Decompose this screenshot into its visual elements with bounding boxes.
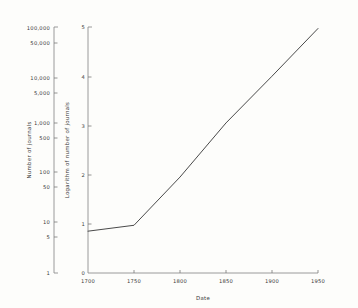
left-tick-label-10: 10 <box>43 219 50 225</box>
left-tick-label-500: 500 <box>39 135 50 141</box>
bottom-tick-label-1800: 1800 <box>173 278 187 284</box>
left-tick-label-100000: 100,000 <box>27 25 50 31</box>
bottom-axis-title: Date <box>196 295 210 301</box>
inner-log-axis: 5 4 3 2 1 0 Logarithm of number of journ… <box>64 24 92 276</box>
left-tick-label-1000: 1,000 <box>34 120 50 126</box>
left-tick-label-1: 1 <box>46 270 50 276</box>
inner-tick-label-4: 4 <box>81 74 85 80</box>
bottom-tick-label-1900: 1900 <box>265 278 279 284</box>
inner-tick-label-2: 2 <box>81 172 85 178</box>
chart-canvas: 100,000 50,000 10,000 5,000 1,000 500 10… <box>0 0 358 308</box>
left-tick-label-5: 5 <box>46 234 50 240</box>
figure-container: 100,000 50,000 10,000 5,000 1,000 500 10… <box>0 0 358 308</box>
bottom-tick-label-1850: 1850 <box>219 278 233 284</box>
bottom-tick-label-1700: 1700 <box>81 278 95 284</box>
left-axis-title: Number of journals <box>26 121 33 178</box>
data-series-line <box>88 28 318 231</box>
bottom-axis: 1700 1750 1800 1850 1900 1950 Date <box>81 270 325 301</box>
inner-tick-label-1: 1 <box>81 221 85 227</box>
bottom-tick-label-1750: 1750 <box>127 278 141 284</box>
bottom-tick-label-1950: 1950 <box>311 278 325 284</box>
inner-tick-label-0: 0 <box>81 270 85 276</box>
left-axis: 100,000 50,000 10,000 5,000 1,000 500 10… <box>26 25 58 276</box>
left-tick-label-50: 50 <box>43 184 50 190</box>
inner-tick-label-3: 3 <box>81 123 85 129</box>
left-tick-label-5000: 5,000 <box>34 90 50 96</box>
left-tick-label-10000: 10,000 <box>30 75 50 81</box>
inner-axis-title: Logarithm of number of journals <box>64 102 71 198</box>
inner-tick-label-5: 5 <box>81 24 85 30</box>
left-tick-label-100: 100 <box>39 169 50 175</box>
left-tick-label-50000: 50,000 <box>30 40 50 46</box>
